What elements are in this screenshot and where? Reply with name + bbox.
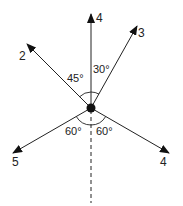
label-vector-4-up: 4 [96,12,103,24]
arc-60-left [76,117,91,126]
arc-60-right [91,117,106,126]
label-vector-2: 2 [19,50,26,62]
arc-45 [80,92,91,97]
angle-label-30: 30° [93,64,110,75]
label-vector-4-down-right: 4 [160,156,167,168]
angle-label-60-left: 60° [65,126,82,137]
label-vector-5: 5 [12,156,19,168]
label-vector-3: 3 [138,27,145,39]
center-point [87,104,96,113]
force-diagram [0,0,183,206]
angle-label-60-right: 60° [96,126,113,137]
arc-30 [91,92,99,94]
angle-label-45: 45° [67,73,84,84]
